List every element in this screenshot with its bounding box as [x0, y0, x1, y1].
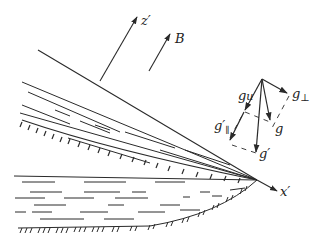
x-prime-axis: x′ [257, 180, 290, 199]
g-vector [262, 79, 270, 120]
z-prime-axis: z′ [100, 13, 151, 81]
wedge-top-boundary [38, 50, 257, 180]
z-prime-label: z′ [140, 13, 151, 28]
x-prime-label: x′ [280, 184, 290, 199]
diagram-canvas: z′ B x′ gu g⊥ g g′ g′∥ [0, 0, 320, 245]
g-prime-label: g′ [259, 146, 270, 161]
g-prime-parallel-label: g′∥ [214, 118, 229, 135]
hatched-bed-lower [18, 180, 257, 233]
b-field-vector: B [149, 31, 185, 71]
diagram-svg: z′ B x′ gu g⊥ g g′ g′∥ [0, 0, 320, 245]
g-perp-vector [262, 79, 287, 93]
g-perp-label: g⊥ [292, 86, 310, 103]
b-field-label: B [174, 31, 185, 46]
lower-layer [14, 176, 257, 219]
g-u-label: gu [238, 88, 253, 103]
g-prime-vector [256, 79, 262, 152]
g-label: g [275, 121, 283, 136]
